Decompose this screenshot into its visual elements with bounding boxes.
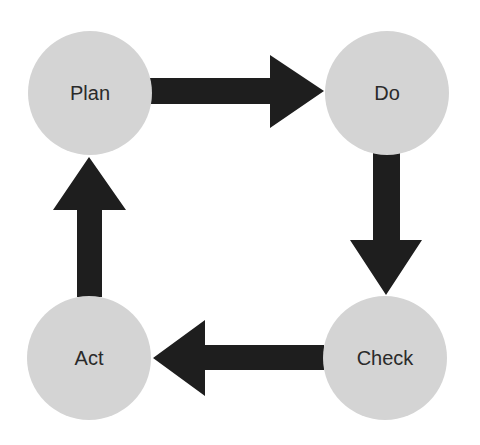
node-check-label: Check	[357, 347, 415, 369]
node-check: Check	[323, 296, 447, 420]
arrow-plan-to-do	[150, 55, 324, 128]
node-act: Act	[27, 296, 151, 420]
node-plan: Plan	[28, 31, 152, 155]
arrow-act-to-plan	[53, 157, 126, 297]
pdca-cycle-diagram: Plan Do Check Act	[0, 0, 480, 445]
arrow-do-to-check	[350, 152, 422, 295]
arrow-check-to-act	[153, 320, 324, 396]
node-act-label: Act	[75, 347, 104, 369]
node-do-label: Do	[374, 82, 400, 104]
node-do: Do	[325, 31, 449, 155]
node-plan-label: Plan	[70, 82, 110, 104]
